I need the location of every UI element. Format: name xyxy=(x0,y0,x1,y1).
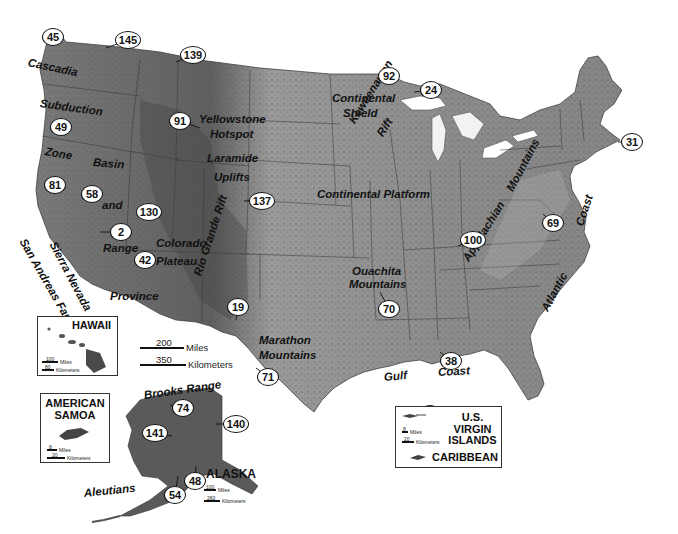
region-label-uplifts: Uplifts xyxy=(214,172,250,184)
region-label-province: Province xyxy=(110,291,159,303)
park-marker-100: 100 xyxy=(460,231,486,249)
samoa-km-unit: Kilometers xyxy=(67,455,91,461)
park-marker-71: 71 xyxy=(257,368,279,386)
park-marker-2: 2 xyxy=(110,223,132,241)
park-marker-49: 49 xyxy=(50,118,72,136)
park-marker-70: 70 xyxy=(378,300,400,318)
park-marker-42: 42 xyxy=(134,251,156,269)
park-marker-54: 54 xyxy=(164,486,186,504)
park-marker-137: 137 xyxy=(249,192,275,210)
park-marker-74: 74 xyxy=(172,399,194,417)
park-marker-140: 140 xyxy=(223,415,249,433)
virgin-islands-inset: U.S. VIRGIN ISLANDS CARIBBEAN 8 Miles 20… xyxy=(395,406,502,468)
region-label-yellowstone: Yellowstone xyxy=(199,114,266,126)
park-marker-145: 145 xyxy=(115,31,141,49)
miles-scale-unit: Miles xyxy=(186,342,208,353)
samoa-miles-value: 8 xyxy=(49,444,52,450)
park-marker-24: 24 xyxy=(420,81,442,99)
alaska-title: ALASKA xyxy=(206,468,256,481)
miles-scale-value: 200 xyxy=(156,337,172,348)
park-marker-38: 38 xyxy=(440,352,462,370)
hawaii-miles-unit: Miles xyxy=(60,359,72,365)
park-marker-130: 130 xyxy=(136,203,162,221)
region-label-marathon-2: Mountains xyxy=(259,350,317,362)
region-label-continental-platform: Continental Platform xyxy=(317,189,430,201)
vi-km-unit: Kilometers xyxy=(416,439,440,445)
park-marker-31: 31 xyxy=(621,133,643,151)
park-marker-141: 141 xyxy=(142,424,168,442)
region-label-hotspot: Hotspot xyxy=(210,129,253,141)
vi-miles-unit: Miles xyxy=(410,429,422,435)
region-label-ouachita-1: Ouachita xyxy=(352,266,401,278)
park-marker-91: 91 xyxy=(169,112,191,130)
caribbean-title: CARIBBEAN xyxy=(432,452,498,464)
region-label-gulf: Gulf xyxy=(383,370,407,383)
park-marker-48: 48 xyxy=(184,472,206,490)
region-label-laramide: Laramide xyxy=(207,153,258,165)
park-marker-45: 45 xyxy=(42,28,64,46)
alaska-km-value: 260 xyxy=(207,495,215,501)
hawaii-inset: HAWAII 100 Miles 80 Kilometers xyxy=(37,316,118,376)
vi-km-value: 20 xyxy=(404,436,410,442)
park-marker-58: 58 xyxy=(81,185,103,203)
alaska-miles-value: 100 xyxy=(206,484,214,490)
km-scale-value: 350 xyxy=(156,354,172,365)
alaska-miles-unit: Miles xyxy=(218,487,230,493)
hawaii-km-unit: Kilometers xyxy=(56,367,80,373)
vi-miles-value: 8 xyxy=(403,426,406,432)
park-marker-69: 69 xyxy=(542,214,564,232)
samoa-km-value: 20 xyxy=(52,452,58,458)
samoa-miles-unit: Miles xyxy=(59,447,71,453)
hawaii-miles-value: 100 xyxy=(46,356,54,362)
region-label-plateau: Plateau xyxy=(156,256,197,268)
park-marker-92: 92 xyxy=(378,67,400,85)
region-label-marathon-1: Marathon xyxy=(259,335,311,347)
park-marker-81: 81 xyxy=(44,176,66,194)
km-scale-unit: Kilometers xyxy=(188,359,233,370)
alaska-km-unit: Kilometers xyxy=(222,498,246,504)
american-samoa-inset: AMERICAN SAMOA 8 Miles 20 Kilometers xyxy=(40,393,110,463)
region-label-and: and xyxy=(102,200,122,212)
region-label-ouachita-2: Mountains xyxy=(349,279,407,291)
hawaii-km-value: 80 xyxy=(45,364,51,370)
region-label-range: Range xyxy=(103,243,138,255)
park-marker-139: 139 xyxy=(180,46,206,64)
park-marker-19: 19 xyxy=(227,298,249,316)
